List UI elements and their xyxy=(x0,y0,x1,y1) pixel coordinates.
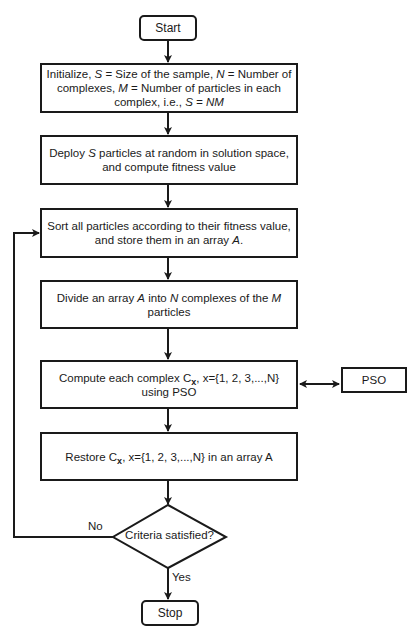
step-divide: Divide an array A into N complexes of th… xyxy=(40,280,298,329)
yes-branch-label: Yes xyxy=(172,571,191,583)
pso-process: PSO xyxy=(341,367,407,393)
step-sort: Sort all particles according to their fi… xyxy=(40,208,298,258)
step-sort-text: Sort all particles according to their fi… xyxy=(46,219,292,247)
pso-label: PSO xyxy=(362,373,386,387)
stop-label: Stop xyxy=(158,606,183,620)
decision-criteria: Criteria satisfied? xyxy=(113,529,226,541)
step-deploy: Deploy S particles at random in solution… xyxy=(40,135,298,185)
step-compute: Compute each complex Cx, x={1, 2, 3,...,… xyxy=(40,360,298,409)
step-initialize: Initialize, S = Size of the sample, N = … xyxy=(40,63,298,113)
start-label: Start xyxy=(155,21,180,35)
step-compute-text: Compute each complex Cx, x={1, 2, 3,...,… xyxy=(46,371,292,399)
step-restore-text: Restore Cx, x={1, 2, 3,...,N} in an arra… xyxy=(65,450,272,464)
step-initialize-text: Initialize, S = Size of the sample, N = … xyxy=(46,67,292,109)
stop-terminal: Stop xyxy=(141,600,199,626)
step-restore: Restore Cx, x={1, 2, 3,...,N} in an arra… xyxy=(40,432,298,481)
start-terminal: Start xyxy=(139,15,197,41)
no-branch-label: No xyxy=(88,520,103,532)
step-deploy-text: Deploy S particles at random in solution… xyxy=(46,146,292,174)
step-divide-text: Divide an array A into N complexes of th… xyxy=(46,291,292,319)
